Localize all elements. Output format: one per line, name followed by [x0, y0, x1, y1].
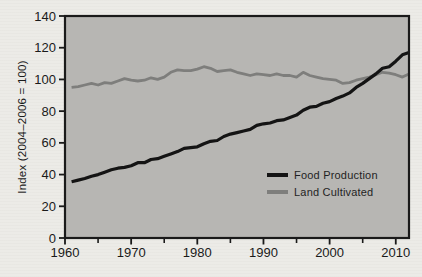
legend: Food Production Land Cultivated [267, 169, 378, 198]
y-tick-label: 140 [34, 9, 56, 24]
x-tick-label: 2010 [381, 245, 410, 260]
y-tick-label: 40 [42, 167, 56, 182]
chart-figure: 0204060801001201401960197019801990200020… [0, 0, 422, 277]
x-tick-label: 1970 [117, 245, 146, 260]
y-tick-label: 20 [42, 199, 56, 214]
legend-label-land-cultivated: Land Cultivated [294, 186, 373, 198]
land-cultivated-line-swatch [267, 190, 288, 194]
y-tick-label: 80 [42, 104, 56, 119]
chart-canvas: 0204060801001201401960197019801990200020… [0, 0, 422, 277]
y-tick-label: 60 [42, 135, 56, 150]
food-production-line-swatch [267, 173, 288, 177]
legend-label-food-production: Food Production [294, 169, 378, 181]
x-tick-label: 1990 [249, 245, 278, 260]
y-axis-title: Index (2004–2006 = 100) [16, 60, 28, 193]
x-tick-label: 2000 [315, 245, 344, 260]
plot-panel [65, 16, 409, 238]
legend-item-food-production: Food Production [267, 169, 378, 181]
x-tick-label: 1960 [51, 245, 80, 260]
y-tick-label: 0 [49, 231, 56, 246]
x-tick-label: 1980 [183, 245, 212, 260]
y-tick-label: 120 [34, 40, 56, 55]
legend-item-land-cultivated: Land Cultivated [267, 186, 378, 198]
y-tick-label: 100 [34, 72, 56, 87]
